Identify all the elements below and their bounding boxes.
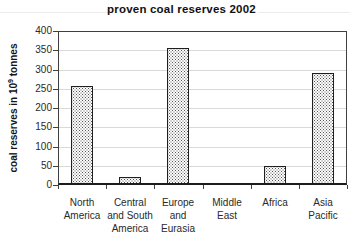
bar xyxy=(71,86,93,185)
gridline xyxy=(58,108,347,109)
x-category-label: Asia Pacific xyxy=(288,196,358,222)
y-tick-mark xyxy=(53,166,58,167)
y-tick-label: 400 xyxy=(16,25,52,36)
x-tick-mark xyxy=(58,185,59,189)
x-tick-mark xyxy=(154,185,155,189)
gridline xyxy=(58,50,347,51)
y-tick-mark xyxy=(53,108,58,109)
y-tick-mark xyxy=(53,31,58,32)
y-axis-label-superscript: 9 xyxy=(7,79,14,83)
y-tick-label: 0 xyxy=(16,179,52,190)
y-tick-label: 150 xyxy=(16,121,52,132)
bar xyxy=(312,73,334,185)
x-tick-mark xyxy=(347,185,348,189)
y-tick-label: 50 xyxy=(16,160,52,171)
y-tick-mark xyxy=(53,147,58,148)
bar xyxy=(216,183,238,185)
bar xyxy=(167,48,189,185)
bar xyxy=(264,166,286,185)
gridline xyxy=(58,70,347,71)
gridline xyxy=(58,127,347,128)
coal-reserves-bar-chart: proven coal reserves 2002 coal reserves … xyxy=(0,0,363,245)
x-tick-mark xyxy=(251,185,252,189)
y-tick-mark xyxy=(53,89,58,90)
x-tick-mark xyxy=(299,185,300,189)
x-tick-mark xyxy=(106,185,107,189)
y-tick-mark xyxy=(53,70,58,71)
bar xyxy=(119,177,141,185)
gridline xyxy=(58,166,347,167)
y-tick-label: 100 xyxy=(16,141,52,152)
gridline xyxy=(58,147,347,148)
y-tick-label: 300 xyxy=(16,64,52,75)
chart-title: proven coal reserves 2002 xyxy=(0,3,363,15)
y-tick-label: 200 xyxy=(16,102,52,113)
plot-area xyxy=(58,31,347,185)
y-tick-label: 350 xyxy=(16,44,52,55)
gridline xyxy=(58,89,347,90)
y-tick-mark xyxy=(53,50,58,51)
y-tick-mark xyxy=(53,127,58,128)
y-tick-label: 250 xyxy=(16,83,52,94)
x-tick-mark xyxy=(203,185,204,189)
